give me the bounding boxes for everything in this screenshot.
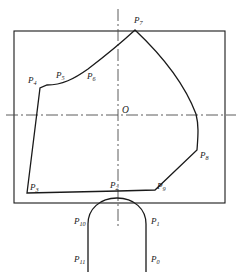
point-label-subscript: 2 bbox=[116, 184, 119, 191]
point-label-subscript: 11 bbox=[80, 258, 86, 265]
point-label-subscript: 10 bbox=[80, 220, 87, 227]
figure-background bbox=[0, 0, 239, 276]
center-point-label: O bbox=[122, 105, 129, 115]
geometry-diagram: O P0P1P2P3P4P5P6P7P8P9P10P11 bbox=[0, 0, 239, 276]
point-label-subscript: 1 bbox=[157, 220, 160, 227]
point-label-subscript: 4 bbox=[34, 79, 37, 86]
figure-container: O P0P1P2P3P4P5P6P7P8P9P10P11 bbox=[0, 0, 239, 276]
point-label-subscript: 9 bbox=[163, 185, 166, 192]
point-label-subscript: 3 bbox=[35, 186, 39, 193]
point-label-subscript: 5 bbox=[62, 74, 65, 81]
